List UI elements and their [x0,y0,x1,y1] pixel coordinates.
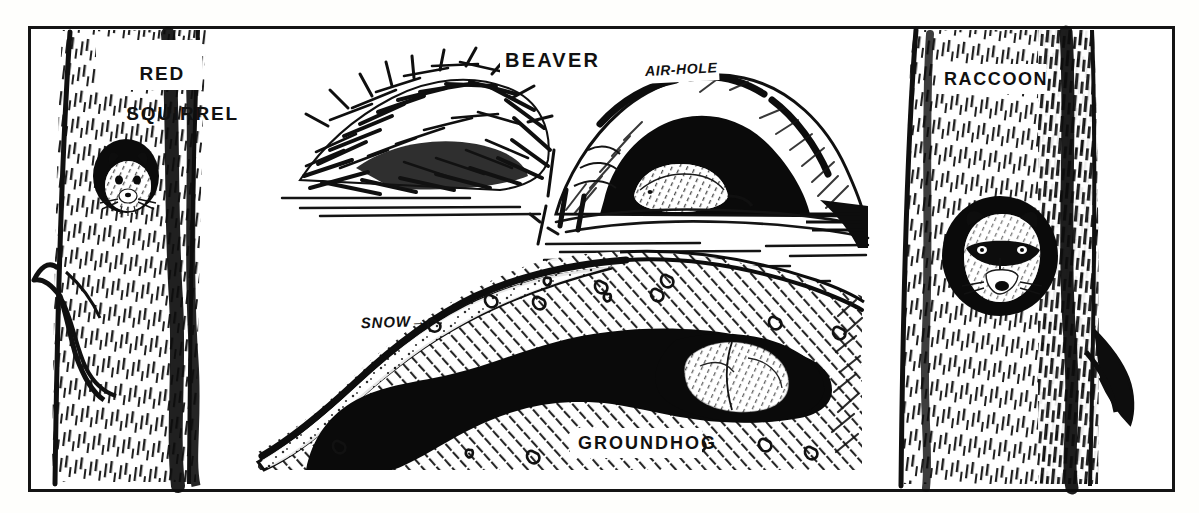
illustration-stage: RED SQUIRREL BEAVER AIR-HOLE SNOW→ GROUN… [0,0,1199,513]
label-red-squirrel: RED SQUIRREL [98,44,198,144]
label-beaver: BEAVER [505,50,600,71]
label-snow: SNOW→ [340,297,427,347]
label-groundhog: GROUNDHOG [578,434,717,453]
label-red-squirrel-line2: SQUIRREL [126,103,239,124]
illustration-frame [28,26,1175,492]
label-raccoon: RACCOON [944,70,1048,89]
snow-arrow-icon: → [410,312,426,330]
label-snow-text: SNOW [361,312,411,331]
label-red-squirrel-line1: RED [139,63,185,84]
